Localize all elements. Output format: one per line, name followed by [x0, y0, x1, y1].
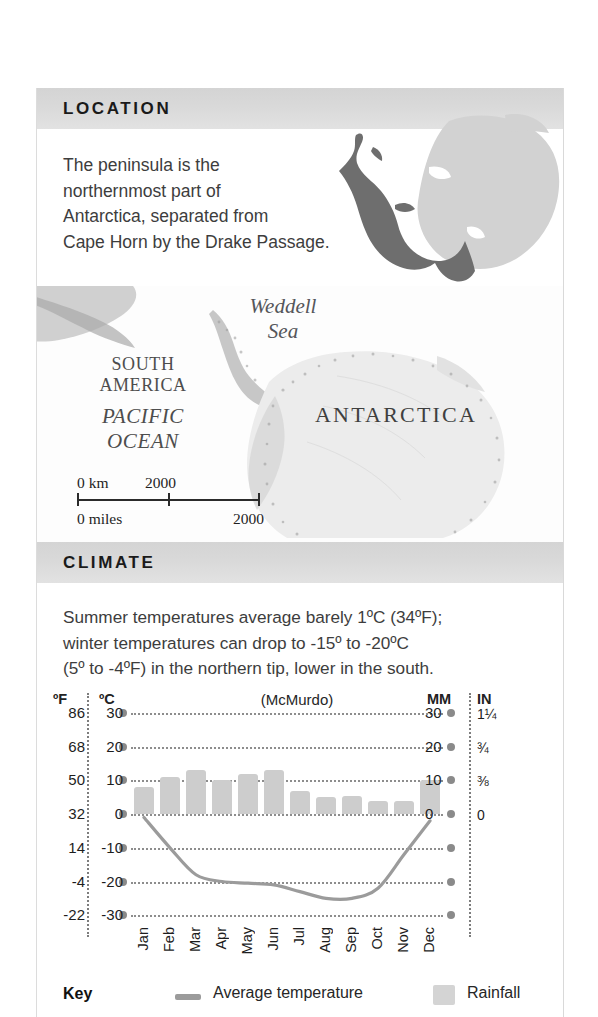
legend-label-temperature: Average temperature: [213, 984, 363, 1002]
axis-tick-celsius: -20: [91, 873, 123, 891]
legend-swatch-rainfall-bar: [433, 985, 455, 1005]
rainfall-bar: [342, 796, 362, 815]
regional-map: Weddell Sea SOUTH AMERICA PACIFIC OCEAN …: [37, 286, 564, 542]
month-label: Feb: [161, 927, 181, 952]
legend-swatch-temperature-line: [175, 994, 201, 1000]
axis-tick-mm: 20: [425, 738, 459, 756]
climate-section-header: CLIMATE: [37, 542, 564, 583]
scale-tick-end: [258, 493, 260, 506]
axis-tick-celsius: 30: [91, 704, 123, 722]
legend-title: Key: [63, 985, 92, 1003]
axis-tick-inches: 1¼: [477, 705, 521, 723]
scale-label-miles-end: 2000: [233, 510, 264, 528]
axis-tick-fahrenheit: 32: [43, 805, 85, 823]
axis-tick-inches: ⅜: [477, 772, 521, 790]
map-label-south-america: SOUTH AMERICA: [73, 354, 213, 396]
legend-label-rainfall: Rainfall: [467, 984, 520, 1002]
axis-tick-inches: 0: [477, 806, 521, 824]
month-label: Nov: [395, 927, 415, 953]
rainfall-bar: [290, 791, 310, 815]
axis-tick-celsius: 0: [91, 805, 123, 823]
map-label-weddell-sea: Weddell Sea: [223, 294, 343, 344]
chart-gridline: [131, 747, 443, 749]
scale-label-km-end: 2000: [145, 474, 176, 492]
axis-tick-inches: ¾: [477, 739, 521, 757]
month-label: Apr: [213, 927, 233, 950]
chart-gridline: [131, 848, 443, 850]
climate-chart: ºF ºC (McMurdo) MM IN 8630301¼682020¾501…: [37, 691, 564, 981]
chart-gridline: [131, 814, 443, 816]
climate-section-body: Summer temperatures average barely 1ºC (…: [37, 583, 564, 1017]
info-panel: LOCATION The peninsula is the northernmo…: [36, 88, 564, 1017]
rainfall-bar: [134, 787, 154, 814]
chart-gridline: [131, 882, 443, 884]
month-label: Jun: [265, 927, 285, 950]
axis-tick-celsius: 20: [91, 738, 123, 756]
axis-tick-mm: 30: [425, 704, 459, 722]
chart-legend: Key Average temperature Rainfall: [37, 981, 564, 1013]
climate-description: Summer temperatures average barely 1ºC (…: [63, 605, 543, 682]
axis-tick-fahrenheit: 14: [43, 839, 85, 857]
gridline-dot-right: [447, 911, 455, 919]
climate-heading: CLIMATE: [63, 553, 155, 573]
axis-tick-celsius: 10: [91, 771, 123, 789]
temperature-line-path: [144, 817, 430, 899]
month-label: Jul: [291, 927, 311, 946]
month-label: Jan: [135, 927, 155, 950]
month-label: May: [239, 927, 259, 954]
rainfall-bar: [394, 801, 414, 814]
scale-label-km-start: 0 km: [77, 474, 108, 492]
scale-tick-mid: [168, 493, 170, 506]
rainfall-bar: [212, 780, 232, 814]
axis-tick-mm: 0: [425, 805, 459, 823]
location-heading: LOCATION: [63, 99, 171, 119]
location-description: The peninsula is the northernmost part o…: [63, 153, 333, 255]
month-label: Aug: [317, 927, 337, 953]
rainfall-bar: [238, 774, 258, 814]
map-label-antarctica: ANTARCTICA: [315, 402, 477, 428]
rainfall-bar: [160, 777, 180, 814]
chart-gridline: [131, 915, 443, 917]
axis-tick-mm: 10: [425, 771, 459, 789]
month-label: Oct: [369, 927, 389, 950]
map-label-pacific-ocean: PACIFIC OCEAN: [73, 404, 213, 454]
gridline-dot-right: [447, 878, 455, 886]
location-section-body: The peninsula is the northernmost part o…: [37, 129, 564, 286]
axis-tick-celsius: -10: [91, 839, 123, 857]
axis-tick-fahrenheit: 50: [43, 771, 85, 789]
axis-tick-celsius: -30: [91, 906, 123, 924]
axis-tick-fahrenheit: 68: [43, 738, 85, 756]
rainfall-bar: [264, 770, 284, 814]
scale-label-miles-start: 0 miles: [77, 510, 122, 528]
gridline-dot-right: [447, 844, 455, 852]
axis-tick-fahrenheit: -22: [43, 906, 85, 924]
month-label: Dec: [421, 927, 441, 953]
axis-tick-fahrenheit: 86: [43, 704, 85, 722]
antarctica-globe-inset-icon: [299, 109, 564, 289]
month-label: Sep: [343, 927, 363, 953]
rainfall-bar: [316, 797, 336, 814]
map-scale-bar: 0 km 2000 0 miles 2000: [75, 472, 275, 534]
rainfall-bar: [186, 770, 206, 814]
chart-gridline: [131, 713, 443, 715]
scale-tick-start: [77, 493, 79, 506]
month-label: Mar: [187, 927, 207, 952]
rainfall-bar: [368, 801, 388, 814]
axis-tick-fahrenheit: -4: [43, 873, 85, 891]
